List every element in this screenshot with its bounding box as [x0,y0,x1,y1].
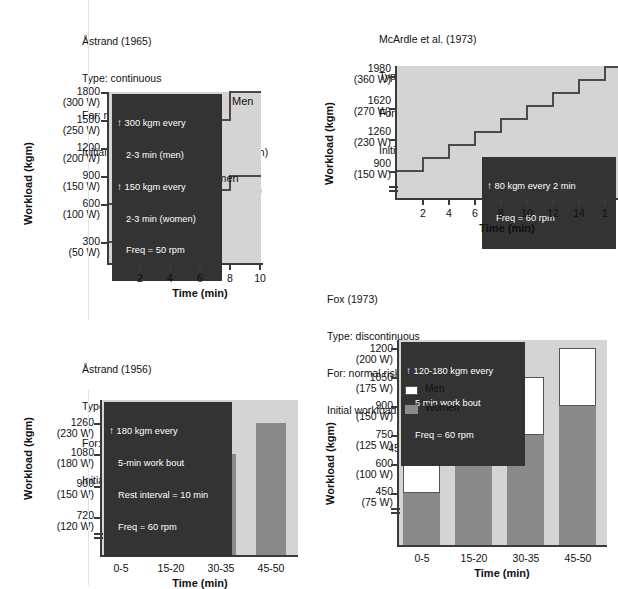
x-tick-label: 15-20 [151,562,191,574]
series-step [397,170,423,172]
annotation-box-fox-1973: ↑ 120-180 kgm every 5 min work bout Freq… [401,342,525,466]
y-tick-mark [389,108,396,110]
x-axis-label: Time (min) [145,287,255,299]
y-tick-mark [101,176,108,178]
annotation-line: Freq = 60 rpm [406,430,518,441]
y-tick-mark [389,139,396,141]
x-tick-mark [169,264,171,270]
series-men-step [229,91,261,93]
x-tick-label: 4 [155,272,185,284]
series-step [578,79,605,81]
y-tick-mark [101,148,108,150]
y-tick-mark [391,493,398,495]
up-arrow-icon: ↑ [487,180,492,191]
scan-artifact-line [88,0,89,320]
up-arrow-icon: ↑ [406,365,411,376]
y-tick-mark [101,242,108,244]
scan-artifact-line [88,390,89,585]
axis-break-mark [391,512,400,514]
series-step [500,118,527,120]
x-tick-label: 10 [245,272,275,284]
x-tick-mark [474,199,476,205]
y-tick-mark [391,406,398,408]
x-tick-mark [526,199,528,205]
legend-label-men: Men [425,383,444,394]
annotation-line: 2-3 min (women) [117,214,215,225]
axis-break-mark [391,508,400,510]
axis-break-mark [94,533,103,535]
x-axis-line [397,545,607,547]
x-axis-label: Time (min) [447,567,557,579]
y-tick-mark [101,204,108,206]
x-tick-label: 30-35 [201,562,241,574]
y-tick-mark [94,486,101,488]
annotation-line: ↑ 180 kgm every [109,426,225,437]
series-step [500,118,502,133]
x-tick-mark [229,264,231,270]
y-tick-mark [391,348,398,350]
caption-line: Type: continuous [82,72,268,84]
y-tick-label: 900 (150 W) [331,400,393,423]
panel-astrand-1965: Åstrand (1965) Type: continuous For: nor… [0,0,309,300]
y-tick-label: 1260 (230 W) [32,417,94,440]
annotation-box-astrand-1956: ↑ 180 kgm every 5-min work bout Rest int… [104,402,232,557]
x-tick-label: 45-50 [251,562,291,574]
axis-break-mark [389,186,398,188]
series-step [422,157,449,159]
y-axis-line [397,340,399,546]
series-step [448,144,450,159]
x-tick-mark [139,264,141,270]
up-arrow-icon: ↑ [117,117,122,128]
y-tick-mark [94,454,101,456]
annotation-line: 5-min work bout [109,458,225,469]
bar-men-45-50 [559,348,596,406]
y-axis-label: Workload (kgm) [22,142,34,225]
series-step [604,66,606,81]
y-tick-label: 1980 (360 W) [329,63,391,86]
y-tick-mark [391,377,398,379]
annotation-line: Rest interval = 10 min [109,490,225,501]
annotation-line: ↑ 120-180 kgm every [406,366,518,377]
series-step [526,105,528,120]
x-tick-mark [422,199,424,205]
annotation-line: Freq = 60 rpm [109,522,225,533]
caption-line: Fox (1973) [327,293,555,305]
x-axis-label: Time (min) [145,577,255,589]
annotation-box-astrand-1965: ↑ 300 kgm every 2-3 min (men) ↑ 150 kgm … [112,94,222,281]
series-step [422,157,424,172]
legend-label-women: Women [425,402,459,413]
y-tick-label: 900 (150 W) [38,170,100,193]
series-step [552,92,554,107]
series-step [474,131,476,146]
y-tick-label: 600 (100 W) [331,458,393,481]
annotation-box-mcardle-1973: ↑ 80 kgm every 2 min Freq = 60 rpm [482,157,616,249]
series-step [552,92,579,94]
annotation-line: 2-3 min (men) [117,150,215,161]
bar-women-0-5 [403,493,440,545]
panel-fox-1973: Fox (1973) Type: discontinuous For: norm… [309,255,618,585]
y-tick-label: 750 (125 W) [331,429,393,452]
series-men-step [229,91,231,121]
series-step [578,79,580,94]
annotation-line: ↑ 300 kgm every [117,118,215,129]
caption-line: McArdle et al. (1973) [379,33,535,45]
x-tick-label: 8 [215,272,245,284]
series-step [474,131,501,133]
series-label-men: Men [232,95,253,107]
legend-swatch-men [405,386,418,395]
x-tick-label: 1 [590,207,618,219]
panel-astrand-1956: Åstrand (1956) Type: discontinuous For: … [0,300,309,585]
x-tick-label: 0-5 [401,552,443,564]
bar-45-50 [256,423,286,555]
x-tick-label: 15-20 [453,552,495,564]
annotation-line: ↑ 150 kgm every [117,182,215,193]
x-tick-mark [199,264,201,270]
x-tick-mark [552,199,554,205]
y-tick-mark [101,120,108,122]
legend-swatch-women [405,405,418,414]
y-tick-label: 1500 (250 W) [38,114,100,137]
axis-break-mark [94,537,103,539]
caption-line: Åstrand (1965) [82,35,268,47]
x-tick-mark [500,199,502,205]
series-step [526,105,553,107]
